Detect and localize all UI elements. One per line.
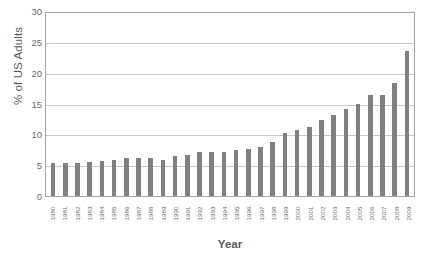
bar (392, 83, 397, 196)
bar (295, 130, 300, 196)
x-tick-label: 2007 (380, 206, 387, 220)
x-tick-slot: 1983 (83, 197, 95, 237)
bar-slot (47, 13, 59, 196)
x-tick-slot: 2005 (353, 197, 365, 237)
bar (136, 158, 141, 196)
bar-slot (108, 13, 120, 196)
bar (124, 158, 129, 196)
x-tick-label: 1985 (110, 206, 117, 220)
bar (75, 163, 80, 196)
x-tick-slot: 1993 (205, 197, 217, 237)
x-tick-slot: 1986 (120, 197, 132, 237)
bar-slot (218, 13, 230, 196)
bar-slot (120, 13, 132, 196)
x-tick-label: 2001 (306, 206, 313, 220)
bar-slot (181, 13, 193, 196)
x-tick-slot: 2006 (365, 197, 377, 237)
x-tick-label: 1995 (233, 206, 240, 220)
x-tick-label: 1980 (49, 206, 56, 220)
x-tick-label: 2009 (404, 206, 411, 220)
x-tick-slot: 1981 (58, 197, 70, 237)
x-tick-label: 1996 (245, 206, 252, 220)
bar (87, 162, 92, 196)
bar (197, 152, 202, 196)
bar (258, 147, 263, 196)
bar-slot (96, 13, 108, 196)
bar (331, 115, 336, 196)
x-tick-label: 1982 (73, 206, 80, 220)
bar (356, 104, 361, 197)
x-tick-label: 1983 (85, 206, 92, 220)
bar-slot (254, 13, 266, 196)
bar (51, 163, 56, 196)
x-tick-slot: 2008 (389, 197, 401, 237)
bar (246, 149, 251, 196)
bar-chart: % of US Adults 051015202530 198019811982… (0, 0, 445, 271)
bar-slot (59, 13, 71, 196)
bar-slot (84, 13, 96, 196)
bar-slot (267, 13, 279, 196)
x-tick-label: 1994 (220, 206, 227, 220)
y-tick-label: 0 (18, 192, 42, 202)
x-axis-title: Year (45, 238, 415, 250)
bar (270, 142, 275, 196)
bar-slot (132, 13, 144, 196)
x-tick-label: 1987 (134, 206, 141, 220)
bar-slot (401, 13, 413, 196)
bar-slot (328, 13, 340, 196)
bar-slot (157, 13, 169, 196)
y-axis-tick-labels: 051015202530 (18, 0, 42, 271)
x-tick-slot: 1996 (242, 197, 254, 237)
bar-slot (206, 13, 218, 196)
x-tick-slot: 2004 (340, 197, 352, 237)
bar-slot (145, 13, 157, 196)
x-tick-label: 2006 (368, 206, 375, 220)
bar (344, 109, 349, 196)
x-tick-label: 1981 (61, 206, 68, 220)
x-tick-label: 1986 (122, 206, 129, 220)
x-tick-slot: 1987 (132, 197, 144, 237)
x-tick-slot: 1998 (267, 197, 279, 237)
bar (148, 158, 153, 196)
bar (161, 160, 166, 196)
bar-slot (303, 13, 315, 196)
x-tick-slot: 1995 (230, 197, 242, 237)
bar (100, 161, 105, 196)
x-tick-label: 2002 (318, 206, 325, 220)
x-tick-label: 1991 (184, 206, 191, 220)
bar-slot (193, 13, 205, 196)
bar-slot (242, 13, 254, 196)
y-tick-label: 25 (18, 38, 42, 48)
x-tick-slot: 1999 (279, 197, 291, 237)
x-tick-slot: 2007 (377, 197, 389, 237)
y-tick-label: 15 (18, 100, 42, 110)
bar-slot (169, 13, 181, 196)
x-tick-label: 1999 (282, 206, 289, 220)
x-tick-slot: 1982 (71, 197, 83, 237)
x-tick-slot: 2003 (328, 197, 340, 237)
x-tick-label: 1988 (147, 206, 154, 220)
plot-area (45, 12, 415, 197)
x-tick-label: 1998 (269, 206, 276, 220)
bar (209, 152, 214, 196)
bar-slot (376, 13, 388, 196)
bar-slot (315, 13, 327, 196)
x-tick-slot: 1997 (255, 197, 267, 237)
bar-slot (340, 13, 352, 196)
bar-slot (71, 13, 83, 196)
x-tick-label: 2005 (355, 206, 362, 220)
bar (283, 133, 288, 196)
x-tick-slot: 1988 (144, 197, 156, 237)
y-tick-label: 20 (18, 69, 42, 79)
y-tick-label: 10 (18, 131, 42, 141)
bar (185, 155, 190, 196)
bar-slot (364, 13, 376, 196)
bar (405, 51, 410, 196)
x-tick-label: 1989 (159, 206, 166, 220)
x-tick-label: 1990 (171, 206, 178, 220)
bar-slot (230, 13, 242, 196)
x-tick-label: 2000 (294, 206, 301, 220)
x-tick-label: 1997 (257, 206, 264, 220)
x-tick-label: 2003 (331, 206, 338, 220)
x-tick-slot: 2000 (291, 197, 303, 237)
